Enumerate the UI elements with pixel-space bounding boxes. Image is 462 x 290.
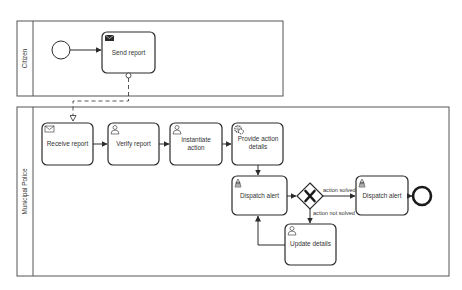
envelope-filled-icon: [105, 35, 114, 41]
pool-label-municipal-police: Municipal Police: [21, 168, 29, 215]
task-label: Update details: [290, 240, 331, 248]
task-dispatch-alert-2[interactable]: Dispatch alert: [356, 176, 408, 215]
task-label: Dispatch alert: [240, 192, 279, 200]
task-label: Verify report: [116, 140, 151, 148]
task-label-line-2: details: [249, 143, 267, 150]
task-receive-report[interactable]: Receive report: [42, 123, 93, 165]
bpmn-diagram: Citizen Municipal Police Send report Rec…: [0, 0, 462, 290]
flow-label-action-not-solved: action not solved: [313, 210, 355, 216]
task-provide-action-details[interactable]: Provide action details: [232, 123, 283, 165]
task-dispatch-alert-1[interactable]: Dispatch alert: [232, 176, 287, 215]
task-verify-report[interactable]: Verify report: [108, 123, 159, 165]
flow-label-action-solved: action solved: [323, 187, 356, 193]
task-label: Dispatch alert: [362, 192, 401, 200]
task-label-line-2: action: [187, 144, 204, 151]
task-label-line-1: Instantiate: [181, 136, 211, 143]
end-event[interactable]: [413, 187, 431, 205]
task-label-line-1: Provide action: [238, 135, 279, 142]
envelope-outline-icon: [45, 126, 54, 132]
task-instantiate-action[interactable]: Instantiate action: [170, 123, 222, 165]
task-send-report[interactable]: Send report: [102, 32, 155, 73]
pool-label-citizen: Citizen: [21, 48, 28, 68]
start-event[interactable]: [52, 41, 70, 59]
task-update-details[interactable]: Update details: [285, 224, 336, 265]
task-label: Receive report: [47, 140, 89, 148]
task-label: Send report: [112, 49, 146, 57]
